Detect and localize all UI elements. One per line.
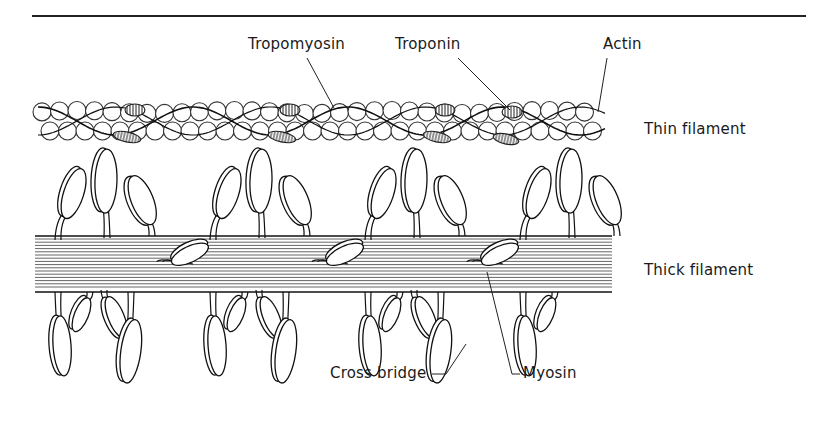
myosin-head-cross-bridge	[118, 172, 162, 236]
myosin-head-cross-bridge	[90, 148, 118, 238]
actin-monomer	[173, 104, 191, 122]
myosin-head-cross-bridge	[53, 164, 92, 240]
thin-filament-label: Thin filament	[644, 120, 746, 138]
actin-monomer	[234, 122, 252, 140]
actin-monomer	[576, 103, 594, 121]
myosin-head-cross-bridge	[583, 172, 627, 236]
myosin-head-cross-bridge	[555, 148, 583, 238]
thick-filament-label: Thick filament	[644, 261, 753, 279]
actin-monomer	[549, 122, 567, 140]
actin-monomer	[86, 102, 104, 120]
myosin-head-cross-bridge	[428, 172, 472, 236]
actin-monomer	[251, 122, 269, 140]
actin-monomer	[199, 122, 217, 140]
actin-monomer	[59, 122, 77, 140]
myosin-head-cross-bridge	[220, 292, 250, 334]
actin-monomer	[51, 102, 69, 120]
actin-monomer	[103, 103, 121, 121]
actin-monomer	[523, 102, 541, 120]
actin-leader	[598, 58, 607, 112]
actin-monomer	[156, 104, 174, 122]
myosin-head-cross-bridge	[208, 164, 247, 240]
myosin-label: Myosin	[523, 364, 577, 382]
troponin-label: Troponin	[395, 35, 460, 53]
actin-monomer	[418, 103, 436, 121]
myosin-head-cross-bridge	[47, 292, 73, 376]
thick-filament	[35, 148, 627, 385]
actin-monomer	[181, 122, 199, 140]
actin-monomer	[304, 122, 322, 140]
actin-monomer	[226, 102, 244, 120]
muscle-filament-diagram: Tropomyosin Troponin Actin Thin filament…	[0, 0, 831, 430]
myosin-head-cross-bridge	[202, 292, 228, 376]
actin-monomer	[339, 122, 357, 140]
myosin-head-cross-bridge	[400, 148, 428, 238]
actin-monomer	[261, 103, 279, 121]
actin-monomer	[348, 103, 366, 121]
actin-monomer	[191, 103, 209, 121]
actin-monomer	[531, 122, 549, 140]
myosin-head-cross-bridge	[65, 292, 95, 334]
actin-monomer	[356, 122, 374, 140]
actin-monomer	[401, 102, 419, 120]
actin-label: Actin	[603, 35, 642, 53]
tropomyosin-label: Tropomyosin	[248, 35, 345, 53]
myosin-head-cross-bridge	[245, 148, 273, 238]
actin-monomer	[374, 122, 392, 140]
myosin-head-cross-bridge	[530, 292, 560, 334]
actin-monomer	[409, 122, 427, 140]
thin-filament	[33, 102, 605, 147]
myosin-head-cross-bridge	[375, 292, 405, 334]
actin-monomer	[383, 102, 401, 120]
myosin-head-cross-bridge	[518, 164, 557, 240]
tropomyosin-leader	[307, 58, 334, 108]
myosin-head-cross-bridge	[363, 164, 402, 240]
actin-monomer	[566, 122, 584, 140]
actin-monomer	[33, 103, 51, 121]
myosin-tail-bundle	[35, 236, 612, 292]
troponin-leader	[458, 58, 510, 110]
cross-bridge-label: Cross bridge	[330, 364, 426, 382]
myosin-head-cross-bridge	[273, 172, 317, 236]
